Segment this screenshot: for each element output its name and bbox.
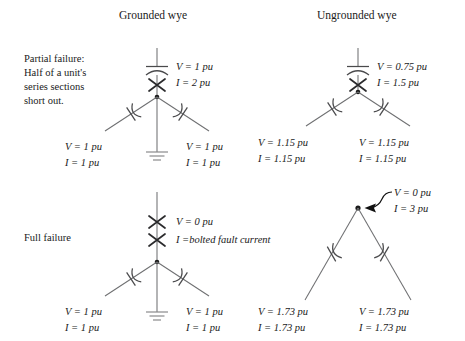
- full-ungrounded-left-current: I = 1.73 pu: [258, 321, 305, 334]
- partial-grounded-right-voltage: V = 1 pu: [186, 140, 223, 153]
- row-label-partial-failure-line2: Half of a unit's: [24, 66, 86, 79]
- partial-ungrounded-left-current: I = 1.15 pu: [258, 152, 305, 165]
- row-label-full-failure: Full failure: [24, 231, 71, 244]
- row-label-partial-failure-line1: Partial failure:: [24, 52, 84, 65]
- partial-grounded-right-current: I = 1 pu: [186, 156, 220, 169]
- callout-arrowhead-icon: [365, 203, 377, 212]
- partial-ungrounded-left-voltage: V = 1.15 pu: [258, 136, 308, 149]
- column-header-grounded-wye: Grounded wye: [119, 8, 187, 23]
- full-grounded-top-voltage: V = 0 pu: [176, 215, 213, 228]
- partial-grounded-top-voltage: V = 1 pu: [176, 60, 213, 73]
- right-branch-capacitor: [374, 243, 389, 261]
- left-branch-capacitor: [327, 243, 342, 261]
- partial-ungrounded-top-current: I = 1.5 pu: [377, 76, 419, 89]
- full-ungrounded-top-voltage: V = 0 pu: [394, 186, 431, 199]
- full-grounded-schematic: [105, 192, 209, 320]
- full-grounded-right-current: I = 1 pu: [186, 321, 220, 334]
- full-ungrounded-top-current: I = 3 pu: [394, 202, 428, 215]
- partial-grounded-left-current: I = 1 pu: [65, 156, 99, 169]
- partial-ungrounded-right-voltage: V = 1.15 pu: [359, 136, 409, 149]
- partial-ungrounded-top-voltage: V = 0.75 pu: [377, 60, 427, 73]
- full-grounded-right-voltage: V = 1 pu: [186, 305, 223, 318]
- capacitor-curved-plate: [146, 71, 168, 75]
- row-label-partial-failure-line4: short out.: [24, 94, 64, 107]
- failure-mode-diagram: Grounded wye Ungrounded wye Partial fail…: [0, 0, 465, 341]
- capacitor-curved-plate: [347, 71, 369, 75]
- full-grounded-left-voltage: V = 1 pu: [65, 305, 102, 318]
- full-ungrounded-right-current: I = 1.73 pu: [359, 321, 406, 334]
- full-ungrounded-left-voltage: V = 1.73 pu: [258, 305, 308, 318]
- partial-grounded-top-current: I = 2 pu: [176, 76, 210, 89]
- column-header-ungrounded-wye: Ungrounded wye: [317, 8, 397, 23]
- full-ungrounded-right-voltage: V = 1.73 pu: [359, 305, 409, 318]
- full-grounded-left-current: I = 1 pu: [65, 321, 99, 334]
- partial-grounded-left-voltage: V = 1 pu: [65, 140, 102, 153]
- row-label-partial-failure-line3: series sections: [24, 80, 84, 93]
- full-grounded-top-current: I =bolted fault current: [176, 233, 270, 246]
- partial-ungrounded-right-current: I = 1.15 pu: [359, 152, 406, 165]
